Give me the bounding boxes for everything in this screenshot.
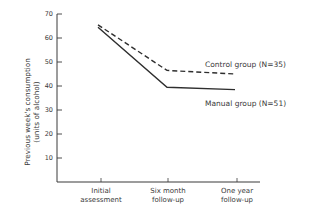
- y-axis-title-line2: (units of alcohol): [32, 81, 41, 143]
- manual-group-line: [98, 27, 235, 89]
- y-axis-title: Previous week's consumption (units of al…: [23, 58, 41, 166]
- y-tick-label: 50: [45, 58, 53, 66]
- x-category-label: Six month: [150, 187, 185, 195]
- y-tick-label: 40: [45, 82, 53, 90]
- x-category-label: follow-up: [221, 196, 254, 204]
- y-tick-label: 10: [45, 154, 53, 162]
- y-axis: 10203040506070: [45, 10, 62, 182]
- x-category-label: One year: [221, 187, 253, 195]
- y-axis-title-line1: Previous week's consumption: [23, 58, 32, 166]
- line-chart: 10203040506070 InitialassessmentSix mont…: [0, 0, 310, 216]
- x-axis: InitialassessmentSix monthfollow-upOne y…: [57, 178, 260, 204]
- y-tick-label: 30: [45, 106, 53, 114]
- legend-control-group: Control group (N=35): [205, 60, 286, 69]
- x-category-label: Initial: [91, 187, 110, 195]
- x-category-label: follow-up: [152, 196, 185, 204]
- y-tick-label: 60: [45, 34, 53, 42]
- series-lines: [98, 25, 235, 90]
- x-category-label: assessment: [80, 196, 122, 204]
- y-tick-label: 70: [45, 10, 53, 18]
- legend-manual-group: Manual group (N=51): [205, 99, 286, 108]
- y-tick-label: 20: [45, 130, 53, 138]
- legend-labels: Control group (N=35) Manual group (N=51): [205, 60, 286, 108]
